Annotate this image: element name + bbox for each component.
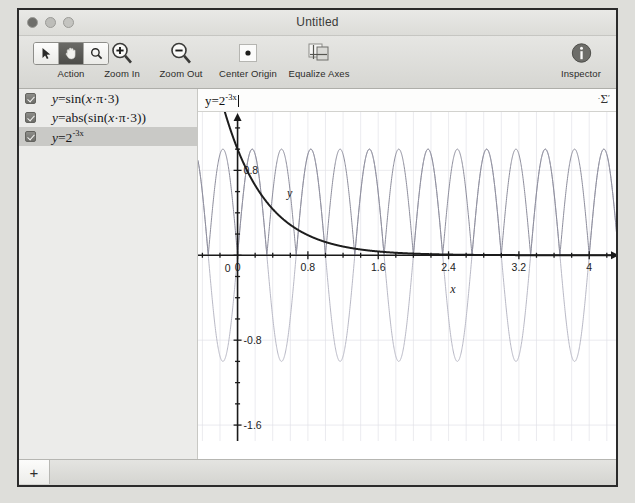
graph-pane: y=2-3x ·Σ′ 00.81.62.43.240.80-0.8-1.6xy [198,89,616,463]
x-tick-label: 1.6 [371,261,386,273]
zoom-out-label: Zoom Out [150,68,212,79]
magnifier-minus-icon [169,41,194,66]
formula-base: y=2 [205,93,225,108]
equation-checkbox[interactable] [25,131,36,142]
equalize-axes-label: Equalize Axes [281,68,357,79]
main-content: y=sin(x·π·3) y=abs(sin(x·π·3)) y=2-3x y=… [19,89,616,463]
y-axis-label: y [286,186,293,200]
sigma-menu-button[interactable]: ·Σ′ [597,91,610,107]
zoom-in-button[interactable]: Zoom In [94,39,150,79]
list-item[interactable]: y=sin(x·π·3) [19,89,197,108]
arrow-pointer-icon[interactable] [34,43,59,64]
equalize-axes-button[interactable]: Equalize Axes [281,39,357,79]
center-origin-label: Center Origin [213,68,283,79]
y-tick-label: 0.8 [244,164,259,176]
equalize-axes-icon [306,41,332,65]
center-origin-icon [236,41,260,65]
x-axis-arrowhead [611,251,616,259]
x-tick-label: 4 [586,261,592,273]
y-tick-label: -1.6 [244,419,262,431]
equation-checkbox[interactable] [25,93,36,104]
curve-series-2 [209,112,616,255]
formula-exponent: -3x [225,92,236,102]
prime-mark-icon: ′ [608,93,610,103]
list-item[interactable]: y=2-3x [19,127,197,146]
window-title: Untitled [19,15,616,29]
formula-input[interactable]: y=2-3x [205,92,239,109]
y-axis-arrowhead [234,113,242,121]
curve-series-1 [198,149,616,255]
inspector-label: Inspector [550,68,612,79]
y-tick-label: 0 [225,262,231,274]
x-tick-label: 0 [235,261,241,273]
add-equation-button[interactable]: + [19,460,50,484]
app-window: Untitled [17,8,618,487]
bottom-bar: + [19,459,616,485]
sigma-icon: Σ [600,91,608,106]
equation-text: y=abs(sin(x·π·3)) [52,110,146,126]
y-tick-label: -0.8 [244,334,262,346]
formula-bar[interactable]: y=2-3x ·Σ′ [198,89,616,112]
equation-sidebar: y=sin(x·π·3) y=abs(sin(x·π·3)) y=2-3x [19,89,198,463]
list-item[interactable]: y=abs(sin(x·π·3)) [19,108,197,127]
text-caret [238,95,239,107]
x-tick-label: 0.8 [301,261,316,273]
info-circle-icon [569,41,594,66]
magnifier-plus-icon [110,41,135,66]
graph-svg: 00.81.62.43.240.80-0.8-1.6xy [198,112,616,441]
center-origin-button[interactable]: Center Origin [213,39,283,79]
zoom-in-label: Zoom In [94,68,150,79]
x-tick-label: 2.4 [441,261,456,273]
hand-pan-icon[interactable] [59,43,84,64]
equation-checkbox[interactable] [25,112,36,123]
toolbar: Action Zoom In [19,36,616,89]
x-axis-label: x [449,282,456,296]
zoom-out-button[interactable]: Zoom Out [150,39,212,79]
plot-canvas[interactable]: 00.81.62.43.240.80-0.8-1.6xy [198,112,616,463]
x-tick-label: 3.2 [512,261,527,273]
equation-text: y=sin(x·π·3) [52,91,119,107]
inspector-button[interactable]: Inspector [550,39,612,79]
equation-text: y=2-3x [52,128,84,146]
title-bar[interactable]: Untitled [19,10,616,36]
screenshot-root: Untitled [0,0,635,503]
equation-exponent: -3x [72,128,83,138]
